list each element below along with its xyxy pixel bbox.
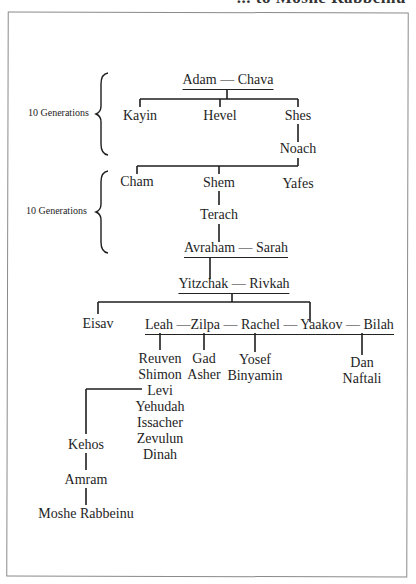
person-cham: Cham — [120, 174, 153, 190]
person-amram: Amram — [65, 472, 108, 488]
person-zevulun: Zevulun — [135, 431, 184, 447]
couple-adam-chava: Adam — Chava — [183, 72, 274, 90]
person-moshe-rabbeinu: Moshe Rabbeinu — [38, 506, 133, 522]
person-yafes: Yafes — [282, 176, 313, 192]
person-dinah: Dinah — [135, 447, 184, 463]
zilpa-children: Gad Asher — [187, 351, 220, 383]
curly-brace — [96, 171, 108, 253]
person-dan: Dan — [343, 355, 382, 371]
person-naftali: Naftali — [343, 371, 382, 387]
person-yehudah: Yehudah — [135, 399, 184, 415]
couple-avraham-sarah: Avraham — Sarah — [184, 240, 288, 258]
bilah-children: Dan Naftali — [343, 355, 382, 387]
person-gad: Gad — [187, 351, 220, 367]
rachel-children: Yosef Binyamin — [227, 352, 282, 384]
person-terach: Terach — [200, 207, 238, 223]
person-noach: Noach — [280, 141, 317, 157]
person-kehos: Kehos — [68, 437, 104, 453]
generations-label: 10 Generations — [28, 107, 89, 118]
person-reuven: Reuven — [135, 351, 184, 367]
couple-yaakov-wives: Leah —Zilpa — Rachel — Yaakov — Bilah — [145, 317, 394, 335]
person-shem: Shem — [203, 175, 235, 191]
person-levi: Levi — [135, 383, 184, 399]
person-asher: Asher — [187, 367, 220, 383]
couple-yitzchak-rivkah: Yitzchak — Rivkah — [178, 276, 289, 294]
generations-label: 10 Generations — [26, 205, 87, 216]
person-yosef: Yosef — [227, 352, 282, 368]
person-shes: Shes — [285, 108, 311, 124]
person-shimon: Shimon — [135, 367, 184, 383]
person-kayin: Kayin — [123, 108, 157, 124]
curly-brace — [96, 73, 108, 155]
person-eisav: Eisav — [82, 316, 113, 332]
person-binyamin: Binyamin — [227, 368, 282, 384]
leah-children: Reuven Shimon Levi Yehudah Issacher Zevu… — [135, 351, 184, 463]
person-hevel: Hevel — [203, 108, 236, 124]
person-issacher: Issacher — [135, 415, 184, 431]
